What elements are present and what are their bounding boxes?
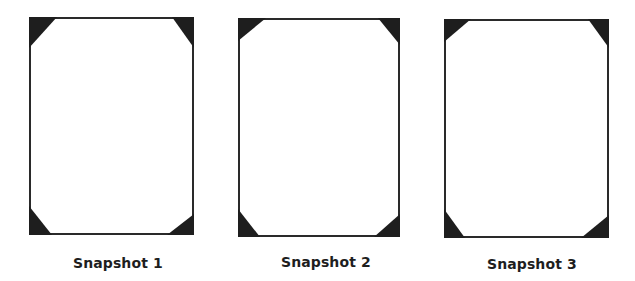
corner-mount-bottom-left-icon xyxy=(238,209,260,237)
corner-mount-bottom-right-icon xyxy=(167,214,194,235)
corner-mount-bottom-left-icon xyxy=(29,206,52,235)
snapshot-label-2: Snapshot 2 xyxy=(281,254,371,270)
corner-mount-top-right-icon xyxy=(378,18,400,45)
snapshot-frame-1 xyxy=(29,17,194,235)
corner-mount-top-left-icon xyxy=(29,17,57,48)
corner-mount-bottom-right-icon xyxy=(581,215,609,238)
snapshot-label-1: Snapshot 1 xyxy=(73,255,163,271)
corner-mount-top-right-icon xyxy=(588,19,609,48)
snapshot-frame-2 xyxy=(238,18,400,237)
snapshot-frame-3 xyxy=(444,19,609,238)
corner-mount-top-left-icon xyxy=(444,19,471,42)
corner-mount-bottom-left-icon xyxy=(444,209,465,238)
corner-mount-top-right-icon xyxy=(172,17,194,48)
corner-mount-bottom-right-icon xyxy=(374,214,400,237)
corner-mount-top-left-icon xyxy=(238,18,266,41)
snapshot-label-3: Snapshot 3 xyxy=(487,256,577,272)
